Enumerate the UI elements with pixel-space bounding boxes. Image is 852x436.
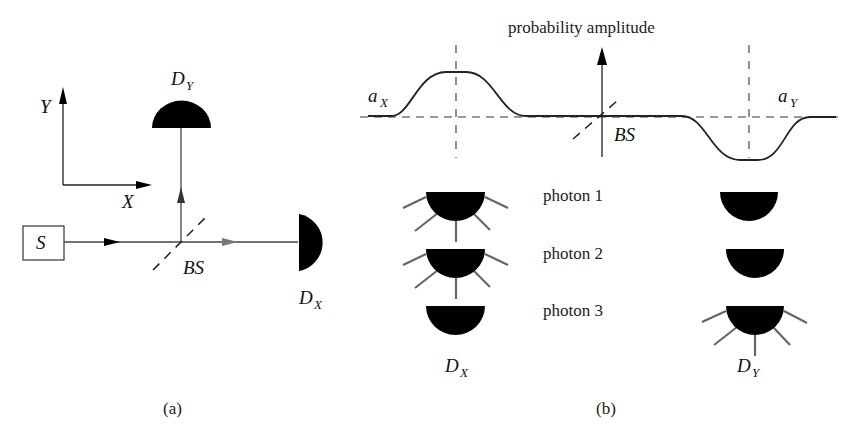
photon-label: photon 1 [543, 186, 603, 205]
detector-x-subscript: X [313, 297, 323, 312]
panel-a: Y X S BS D Y D [23, 68, 323, 418]
detector-y-idle-icon [726, 249, 784, 278]
amplitude-y-subscript: Y [790, 95, 799, 110]
detector-x: D X [298, 214, 323, 312]
amplitude-x-subscript: X [379, 95, 389, 110]
photon-row-2: photon 2 [403, 244, 784, 299]
detector-x-label-b: D [444, 355, 459, 376]
beam-arrow-reflected-icon [177, 187, 185, 203]
detector-y-subscript: Y [186, 78, 195, 93]
detector-x-idle-icon [426, 306, 485, 335]
caption-b: (b) [596, 399, 616, 418]
detector-x-label: D [298, 287, 313, 308]
photon-row-3: photon 3 [426, 301, 807, 356]
amplitude-axis-arrow-icon [597, 47, 607, 65]
amplitude-x-label: a [368, 85, 378, 106]
detector-x-icon [299, 214, 323, 271]
y-axis-arrow-icon [59, 87, 67, 104]
y-axis-label: Y [40, 96, 53, 117]
beam-arrow-transmitted-icon [222, 238, 238, 246]
source-label: S [36, 232, 46, 253]
caption-a: (a) [163, 399, 182, 418]
x-axis-label: X [121, 191, 135, 212]
detector-y-label: D [170, 68, 185, 89]
photon-label: photon 3 [543, 301, 603, 320]
source-box: S [23, 226, 64, 260]
coordinate-axes: Y X [40, 87, 152, 212]
detector-y-idle-icon [720, 192, 778, 221]
photon-row-1: photon 1 [403, 186, 778, 242]
detector-y-subscript-b: Y [752, 365, 761, 380]
photon-label: photon 2 [543, 244, 603, 263]
beam-path [64, 128, 298, 246]
detector-y: D Y [152, 68, 211, 128]
detector-y-icon [152, 101, 211, 128]
amplitude-y-label: a [778, 85, 788, 106]
figure: Y X S BS D Y D [0, 0, 852, 436]
panel-b: probability amplitude BS a X a Y [360, 18, 838, 418]
detector-x-subscript-b: X [459, 365, 469, 380]
x-axis-arrow-icon [136, 181, 152, 189]
detector-y-label-b: D [736, 355, 751, 376]
beam-splitter-b-label: BS [614, 124, 636, 145]
beam-arrow-icon [104, 238, 120, 246]
beam-splitter-label: BS [183, 257, 205, 278]
axis-title: probability amplitude [508, 18, 655, 37]
beam-splitter-b [573, 101, 617, 139]
